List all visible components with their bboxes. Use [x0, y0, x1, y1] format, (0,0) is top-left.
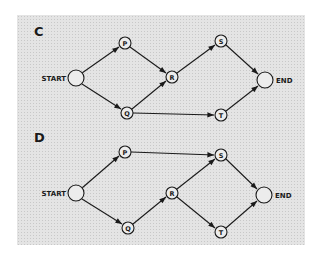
node-c-end — [257, 72, 273, 88]
diagram-d: D P Q R S T START END — [34, 130, 292, 238]
edge-d-p-s — [131, 152, 214, 155]
edge-c-start-p — [82, 47, 119, 73]
node-d-end-label: END — [275, 192, 292, 200]
edge-d-r-t — [177, 197, 215, 228]
node-d-start-label: START — [41, 190, 66, 198]
diagram-c-title: C — [34, 24, 44, 39]
edge-d-start-p — [82, 156, 119, 188]
node-c-t-label: T — [219, 112, 224, 120]
edge-c-start-q — [82, 84, 121, 109]
node-c-r-label: R — [169, 74, 174, 82]
node-d-p-label: P — [123, 149, 128, 157]
edge-d-r-s — [177, 159, 215, 189]
edge-c-t-end — [226, 86, 258, 111]
node-d-t-label: T — [219, 229, 224, 237]
edge-c-r-s — [177, 45, 215, 73]
node-c-q-label: Q — [124, 110, 130, 118]
edge-d-q-r — [133, 197, 166, 224]
network-diagrams: C P Q R S T START END — [0, 0, 319, 258]
node-c-s-label: S — [219, 38, 224, 46]
node-c-start-label: START — [41, 75, 66, 83]
edge-c-p-r — [130, 47, 166, 73]
edge-d-start-q — [82, 199, 122, 224]
node-d-s-label: S — [219, 152, 224, 160]
diagram-c: C P Q R S T START END — [34, 24, 293, 121]
node-c-start — [68, 70, 84, 86]
node-d-q-label: Q — [125, 225, 131, 233]
node-c-p-label: P — [123, 40, 128, 48]
diagram-d-title: D — [34, 130, 45, 145]
edge-d-t-end — [226, 201, 257, 228]
node-d-start — [68, 185, 84, 201]
node-d-r-label: R — [169, 190, 174, 198]
node-d-end — [256, 187, 272, 203]
node-c-end-label: END — [276, 77, 293, 85]
edge-c-q-r — [132, 81, 166, 109]
edge-d-s-end — [226, 159, 257, 189]
edge-c-s-end — [226, 45, 258, 74]
edge-c-q-t — [133, 113, 214, 115]
